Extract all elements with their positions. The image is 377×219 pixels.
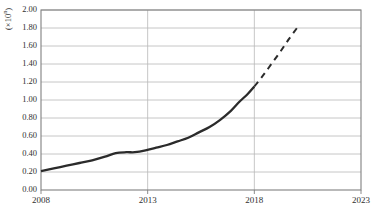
x-axis-tick-label: 2008: [11, 196, 71, 205]
x-axis-tick-marks: [41, 10, 361, 194]
gridlines: [41, 10, 361, 172]
data-series-group: [41, 28, 297, 171]
x-axis-tick-label: 2018: [224, 196, 284, 205]
series-line-projection: [254, 28, 297, 87]
x-axis-tick-label: 2013: [118, 196, 178, 205]
x-axis-tick-label: 2023: [331, 196, 377, 205]
plot-area: [0, 0, 377, 219]
line-chart: (×10n) 0.000.200.400.600.801.001.201.401…: [0, 0, 377, 219]
